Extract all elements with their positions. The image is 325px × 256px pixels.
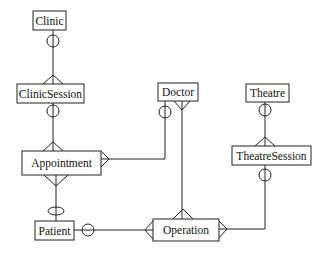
entity-label: Operation (163, 224, 209, 237)
entity-clinic-session: ClinicSession (17, 84, 84, 103)
entity-theatre: Theatre (246, 84, 289, 102)
entity-label: Doctor (162, 86, 194, 98)
entity-theatre-session: TheatreSession (232, 146, 311, 165)
entity-label: Patient (39, 225, 72, 237)
entity-label: Theatre (250, 87, 285, 99)
entity-operation: Operation (153, 219, 219, 241)
entity-patient: Patient (35, 221, 74, 240)
entity-label: Clinic (35, 15, 63, 27)
entity-doctor: Doctor (158, 83, 198, 101)
er-diagram: Clinic ClinicSession Appointment Patient… (0, 0, 325, 256)
entity-label: TheatreSession (236, 150, 307, 162)
entity-clinic: Clinic (33, 11, 66, 30)
entity-label: Appointment (31, 157, 92, 170)
rel-theatresession-operation (219, 165, 265, 229)
crows-foot-icon (173, 209, 193, 219)
rel-doctor-appointment (101, 101, 165, 159)
entity-label: ClinicSession (19, 88, 83, 100)
entity-appointment: Appointment (22, 151, 101, 175)
